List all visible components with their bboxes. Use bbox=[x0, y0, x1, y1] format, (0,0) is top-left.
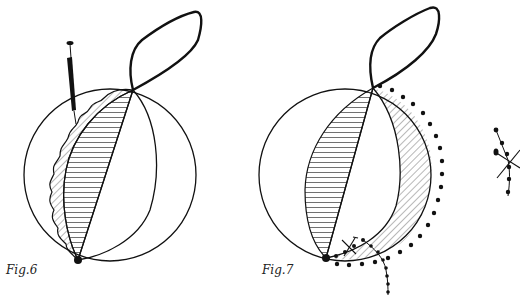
figure-plate: Fig.6 Fig.7 bbox=[0, 0, 520, 295]
figure-7 bbox=[259, 7, 444, 295]
bottom-point bbox=[74, 256, 82, 264]
figure-6-caption: Fig.6 bbox=[6, 263, 37, 277]
bottom-point bbox=[322, 254, 330, 262]
top-loop bbox=[130, 12, 201, 90]
hatched-lune bbox=[64, 90, 133, 260]
figure-8-partial bbox=[494, 128, 520, 196]
figure-6 bbox=[24, 12, 201, 264]
hatched-lune bbox=[305, 88, 373, 258]
top-loop bbox=[370, 7, 439, 88]
figure-7-caption: Fig.7 bbox=[262, 263, 293, 277]
syringe-icon bbox=[67, 41, 77, 124]
